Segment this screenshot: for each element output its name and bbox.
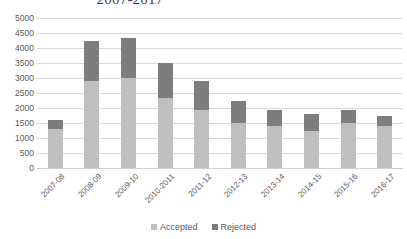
bar-segment-accepted[interactable] (377, 126, 392, 168)
y-axis-tick-label: 1000 (0, 134, 34, 143)
bar-segment-accepted[interactable] (121, 78, 136, 168)
bar-segment-rejected[interactable] (194, 81, 209, 110)
bar-segment-accepted[interactable] (48, 129, 63, 168)
bar-segment-accepted[interactable] (194, 110, 209, 169)
bar-group[interactable] (304, 114, 319, 168)
chart-title: 2007-2017 (0, 0, 260, 11)
bar-group[interactable] (121, 38, 136, 169)
legend-swatch-icon (212, 224, 218, 230)
y-axis-tick-label: 0 (0, 164, 34, 173)
y-axis-tick-label: 5000 (0, 14, 34, 23)
y-axis-tick-label: 4500 (0, 29, 34, 38)
y-axis-tick-label: 2500 (0, 89, 34, 98)
bar-chart: 2007-2017 500045004000350030002500200015… (0, 0, 407, 239)
y-axis-tick-label: 500 (0, 149, 34, 158)
bar-group[interactable] (84, 41, 99, 169)
bar-segment-accepted[interactable] (304, 131, 319, 169)
legend-item[interactable]: Rejected (212, 222, 257, 232)
legend-label: Rejected (221, 222, 257, 232)
bar-group[interactable] (377, 116, 392, 169)
bar-group[interactable] (231, 101, 246, 169)
bar-segment-accepted[interactable] (267, 126, 282, 168)
bars-layer (37, 18, 403, 168)
bar-group[interactable] (194, 81, 209, 168)
bar-group[interactable] (341, 110, 356, 169)
bar-segment-accepted[interactable] (158, 98, 173, 169)
bar-segment-rejected[interactable] (231, 101, 246, 124)
y-axis-tick-label: 3500 (0, 59, 34, 68)
plot-area (37, 18, 403, 168)
legend-swatch-icon (151, 224, 157, 230)
bar-segment-accepted[interactable] (84, 81, 99, 168)
bar-segment-accepted[interactable] (341, 123, 356, 168)
bar-segment-rejected[interactable] (304, 114, 319, 131)
bar-group[interactable] (158, 63, 173, 168)
y-axis-tick-label: 3000 (0, 74, 34, 83)
x-axis: 2007-082008-092009-102010-20112011-12201… (37, 168, 403, 218)
bar-group[interactable] (48, 120, 63, 168)
bar-segment-rejected[interactable] (84, 41, 99, 82)
y-axis-tick-label: 1500 (0, 119, 34, 128)
y-axis-tick-label: 4000 (0, 44, 34, 53)
legend-item[interactable]: Accepted (151, 222, 198, 232)
chart-legend: AcceptedRejected (0, 222, 407, 232)
bar-segment-rejected[interactable] (158, 63, 173, 98)
bar-group[interactable] (267, 110, 282, 169)
bar-segment-rejected[interactable] (341, 110, 356, 124)
bar-segment-rejected[interactable] (377, 116, 392, 127)
bar-segment-rejected[interactable] (267, 110, 282, 127)
legend-label: Accepted (160, 222, 198, 232)
y-axis-tick-label: 2000 (0, 104, 34, 113)
bar-segment-accepted[interactable] (231, 123, 246, 168)
bar-segment-rejected[interactable] (121, 38, 136, 79)
bar-segment-rejected[interactable] (48, 120, 63, 129)
